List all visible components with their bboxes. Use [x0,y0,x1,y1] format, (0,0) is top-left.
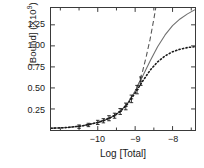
y-axis-title-exponent: 9 [26,6,33,10]
y-axis-title-close-paren: ) [27,2,38,5]
series-solid-model [51,10,195,129]
x-tick-label: −8 [168,134,178,144]
data-point-group [77,77,142,128]
y-tick-label: 0.25 [27,105,45,115]
x-tick-label: −10 [90,134,105,144]
x-axis-tick-labels: −10−9−8 [0,134,204,148]
series-dashed-model [51,8,156,128]
chart-figure: 0.250.500.751.001.25 [Bound] (X109) −10−… [0,0,204,168]
y-axis-title-text: [Bound] (X10 [27,9,38,66]
plot-area [50,7,196,131]
x-tick-label: −9 [130,134,140,144]
series-dotted-model [51,47,195,129]
x-axis-title: Log [Total] [50,148,196,159]
plot-canvas [51,8,195,130]
y-axis-title: [Bound] (X109) [26,0,38,89]
